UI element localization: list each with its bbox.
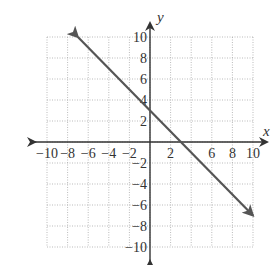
y-tick-label: −4 [132, 177, 147, 192]
data-line [78, 37, 253, 216]
x-tick-label: 8 [229, 146, 236, 161]
x-tick-label: −8 [60, 146, 75, 161]
x-tick-label: −4 [101, 146, 116, 161]
y-axis-label: y [155, 9, 164, 25]
y-tick-label: 6 [140, 72, 147, 87]
x-tick-label: 2 [167, 146, 174, 161]
x-tick-label: −6 [81, 146, 96, 161]
y-tick-label: −10 [125, 240, 147, 255]
y-tick-label: 8 [140, 51, 147, 66]
y-tick-label: 2 [140, 114, 147, 129]
x-axis-label: x [262, 123, 270, 139]
y-tick-label: 10 [133, 30, 147, 45]
x-tick-label: 10 [246, 146, 260, 161]
y-tick-label: −8 [132, 219, 147, 234]
y-tick-label: −2 [132, 156, 147, 171]
plotted-line [78, 37, 253, 216]
coordinate-plane: −10−8−6−4−226810108642−2−4−6−8−10 x y [0, 0, 274, 265]
x-tick-label: −10 [36, 146, 58, 161]
x-tick-label: 6 [208, 146, 215, 161]
y-tick-label: −6 [132, 198, 147, 213]
